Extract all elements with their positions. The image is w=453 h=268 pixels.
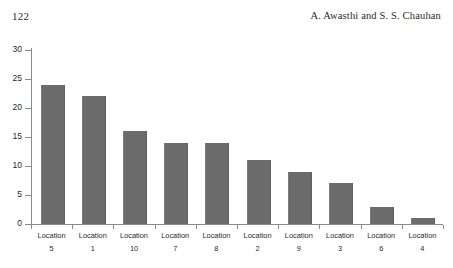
- running-head-authors: A. Awasthi and S. S. Chauhan: [311, 10, 441, 21]
- bar: [82, 96, 106, 224]
- bar: [247, 160, 271, 224]
- category-number: 6: [361, 243, 402, 254]
- category-name: Location: [402, 230, 443, 241]
- category-number: 8: [196, 243, 237, 254]
- x-axis-category-label: Location10: [114, 230, 155, 254]
- x-axis-category-label: Location9: [278, 230, 319, 254]
- x-axis-tick: [72, 225, 73, 229]
- category-name: Location: [155, 230, 196, 241]
- y-axis-tick-label: 25: [0, 74, 22, 83]
- category-number: 7: [155, 243, 196, 254]
- y-axis-tick-label: 30: [0, 45, 22, 54]
- x-axis-category-label: Location8: [196, 230, 237, 254]
- bar: [41, 85, 65, 224]
- category-name: Location: [361, 230, 402, 241]
- x-axis-category-label: Location1: [72, 230, 113, 254]
- y-axis-tick: [25, 108, 31, 109]
- y-axis-tick: [25, 79, 31, 80]
- y-axis-tick: [25, 195, 31, 196]
- y-axis-tick: [25, 166, 31, 167]
- bar: [288, 172, 312, 224]
- x-axis-tick: [155, 225, 156, 229]
- y-axis-tick: [25, 50, 31, 51]
- category-number: 5: [31, 243, 72, 254]
- category-name: Location: [237, 230, 278, 241]
- category-name: Location: [278, 230, 319, 241]
- x-axis-tick: [443, 225, 444, 229]
- x-axis-tick: [113, 225, 114, 229]
- y-axis-tick: [25, 137, 31, 138]
- bar-chart-figure: 051015202530 Location5Location1Location1…: [0, 38, 453, 268]
- page-number: 122: [12, 10, 29, 22]
- x-axis-tick: [361, 225, 362, 229]
- category-number: 2: [237, 243, 278, 254]
- x-axis-tick: [237, 225, 238, 229]
- y-axis-tick-label: 0: [0, 219, 22, 228]
- bar: [411, 218, 435, 224]
- y-axis-tick-label: 15: [0, 132, 22, 141]
- x-axis-tick: [319, 225, 320, 229]
- category-name: Location: [320, 230, 361, 241]
- bar: [123, 131, 147, 224]
- category-name: Location: [196, 230, 237, 241]
- category-number: 1: [72, 243, 113, 254]
- y-axis-tick-label: 20: [0, 103, 22, 112]
- category-name: Location: [114, 230, 155, 241]
- bar: [329, 183, 353, 224]
- x-axis-tick: [402, 225, 403, 229]
- page-header: 122 A. Awasthi and S. S. Chauhan: [0, 10, 453, 26]
- x-axis-tick: [196, 225, 197, 229]
- x-axis-category-label: Location7: [155, 230, 196, 254]
- category-number: 10: [114, 243, 155, 254]
- x-axis-category-label: Location5: [31, 230, 72, 254]
- y-axis-tick-label: 5: [0, 190, 22, 199]
- bar: [205, 143, 229, 224]
- x-axis-category-label: Location3: [320, 230, 361, 254]
- category-number: 9: [278, 243, 319, 254]
- y-axis-tick-label: 10: [0, 161, 22, 170]
- x-axis-category-label: Location4: [402, 230, 443, 254]
- category-name: Location: [31, 230, 72, 241]
- x-axis-category-label: Location6: [361, 230, 402, 254]
- bar: [164, 143, 188, 224]
- bar: [370, 207, 394, 224]
- x-axis-category-label: Location2: [237, 230, 278, 254]
- x-axis-tick: [31, 225, 32, 229]
- x-axis-tick: [278, 225, 279, 229]
- category-name: Location: [72, 230, 113, 241]
- y-axis-line: [31, 48, 32, 224]
- category-number: 4: [402, 243, 443, 254]
- category-number: 3: [320, 243, 361, 254]
